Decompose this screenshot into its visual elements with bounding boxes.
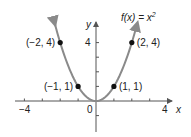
x-axis-label: x <box>175 104 182 115</box>
x-tick-label-4: 4 <box>162 104 168 115</box>
labeled-points: (−2, 4)(−1, 1)(1, 1)(2, 4) <box>26 37 160 92</box>
data-point <box>58 40 63 45</box>
data-point <box>76 84 81 89</box>
function-label-exponent: 2 <box>151 11 156 18</box>
y-axis-label: y <box>85 19 92 30</box>
y-tick-label-4: 4 <box>85 37 91 48</box>
data-point-label: (−1, 1) <box>44 81 73 92</box>
data-point-label: (1, 1) <box>119 81 142 92</box>
x-tick-label-neg4: −4 <box>19 104 31 115</box>
data-point <box>111 84 116 89</box>
data-point <box>129 40 134 45</box>
x-tick-label-0: 0 <box>87 104 93 115</box>
function-label: f(x) = x2 <box>121 11 156 23</box>
data-point-label: (2, 4) <box>137 37 160 48</box>
data-point-label: (−2, 4) <box>26 37 55 48</box>
function-label-base: f(x) = x <box>121 12 153 23</box>
parabola-chart: (−2, 4)(−1, 1)(1, 1)(2, 4) −4 0 4 x 4 y … <box>0 0 191 137</box>
